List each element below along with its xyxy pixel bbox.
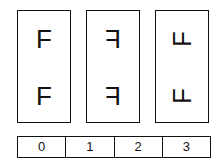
glyph-f-top: F (18, 26, 70, 52)
panel-normal: F F (17, 10, 71, 123)
index-cell-0: 0 (18, 137, 66, 157)
panel-mirrored: F F (86, 10, 140, 123)
glyph-f-bottom: F (18, 83, 70, 109)
index-cell-2: 2 (115, 137, 163, 157)
glyph-f-mirrored-bottom: F (87, 83, 139, 109)
glyph-f-rotated-bottom: F (156, 83, 208, 109)
index-bar: 0 1 2 3 (17, 136, 211, 158)
glyph-f-rotated-top: F (156, 26, 208, 52)
glyph-f-mirrored-top: F (87, 26, 139, 52)
panel-rotated: F F (155, 10, 209, 123)
index-cell-3: 3 (163, 137, 210, 157)
index-cell-1: 1 (66, 137, 114, 157)
